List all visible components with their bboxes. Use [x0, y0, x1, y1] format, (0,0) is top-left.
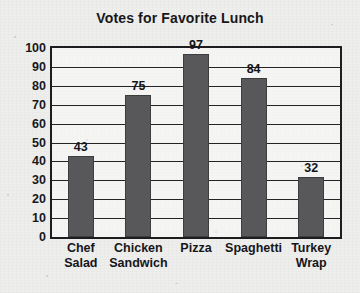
- bar: [298, 177, 324, 237]
- y-axis-tick-label: 50: [2, 137, 46, 149]
- bar: [241, 78, 267, 237]
- y-axis-tick-label: 30: [2, 174, 46, 186]
- y-axis-tick-label: 20: [2, 193, 46, 205]
- scanned-page: Votes for Favorite Lunch 010203040506070…: [0, 0, 360, 293]
- bar: [125, 95, 151, 237]
- bar: [183, 54, 209, 237]
- x-axis-category-label-line: Wrap: [275, 256, 347, 271]
- paper-speck: [14, 36, 16, 38]
- y-axis-tick-label: 40: [2, 155, 46, 167]
- bar-value-label: 75: [108, 80, 168, 93]
- x-axis-category-label: TurkeyWrap: [275, 241, 347, 271]
- y-axis-tick-label: 10: [2, 212, 46, 224]
- y-axis-tick-label: 90: [2, 61, 46, 73]
- y-axis-tick-label: 60: [2, 118, 46, 130]
- bar-value-label: 84: [224, 63, 284, 76]
- y-axis-tick-label: 0: [2, 231, 46, 243]
- y-axis-tick-label: 100: [2, 42, 46, 54]
- x-axis-category-labels: ChefSaladChickenSandwichPizzaSpaghettiTu…: [50, 241, 342, 291]
- chart-title: Votes for Favorite Lunch: [0, 9, 360, 27]
- x-axis-category-label-line: Turkey: [275, 241, 347, 256]
- bar: [68, 156, 94, 237]
- y-axis-tick-label: 80: [2, 80, 46, 92]
- paper-speck: [46, 275, 48, 277]
- y-axis-tick-labels: 0102030405060708090100: [0, 46, 46, 239]
- y-axis-tick-label: 70: [2, 99, 46, 111]
- bar-value-label: 32: [281, 162, 341, 175]
- bar-value-label: 43: [51, 141, 111, 154]
- x-axis-category-label-line: Sandwich: [102, 256, 174, 271]
- bar-value-label: 97: [166, 39, 226, 52]
